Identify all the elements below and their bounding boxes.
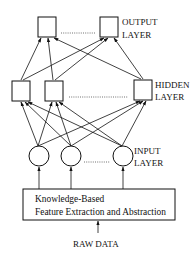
output-layer <box>38 17 118 37</box>
input-label-line1: INPUT <box>134 146 161 156</box>
hidden-to-output-edges <box>21 38 143 80</box>
output-label-line1: OUTPUT <box>122 17 158 27</box>
input-node-n <box>113 146 133 166</box>
output-node-1 <box>38 17 56 37</box>
input-node-1 <box>29 146 49 166</box>
hidden-label-line1: HIDDEN <box>155 80 190 90</box>
input-label-line2: LAYER <box>134 158 163 168</box>
neural-network-diagram: Knowledge-Based Feature Extraction and A… <box>0 0 196 258</box>
hidden-node-n <box>134 80 152 100</box>
output-label-line2: LAYER <box>122 30 151 40</box>
feature-box-line2: Feature Extraction and Abstraction <box>35 207 166 217</box>
raw-data-label: RAW DATA <box>73 239 119 249</box>
feature-to-input-edges <box>39 167 123 189</box>
output-node-n <box>100 17 118 37</box>
hidden-node-1 <box>12 81 30 101</box>
input-layer <box>29 146 133 166</box>
hidden-label-line2: LAYER <box>155 92 184 102</box>
input-node-2 <box>61 146 81 166</box>
hidden-layer <box>12 80 152 101</box>
input-to-hidden-edges <box>21 101 146 146</box>
hidden-node-2 <box>45 81 63 101</box>
feature-box-line1: Knowledge-Based <box>35 194 105 204</box>
